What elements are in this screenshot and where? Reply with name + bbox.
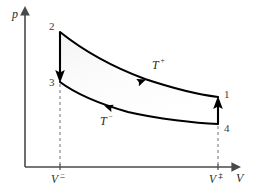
isotherm-cold-label: T − [100, 112, 113, 128]
svg-text:−: − [108, 112, 113, 121]
state-point-label-4: 4 [224, 122, 230, 134]
y-axis-label: p [11, 7, 18, 21]
state-point-label-2: 2 [49, 20, 55, 32]
x-axis-label: V [236, 171, 245, 185]
svg-text:+: + [160, 56, 165, 65]
svg-text:+: + [218, 170, 223, 179]
isotherm-hot-label: T + [152, 56, 165, 72]
cycle-interior-fill [60, 32, 218, 124]
state-point-label-1: 1 [224, 88, 230, 100]
carnot-cycle-figure: p V V⁻ − V⁺ + T + T − 2 3 1 4 [0, 0, 254, 191]
svg-text:T: T [100, 114, 108, 128]
state-point-label-3: 3 [49, 76, 55, 88]
svg-text:−: − [60, 170, 65, 179]
svg-text:T: T [152, 58, 160, 72]
tick-label-v-minus: V⁻ − [51, 170, 65, 185]
carnot-diagram-svg: p V V⁻ − V⁺ + T + T − 2 3 1 4 [0, 0, 254, 191]
tick-label-v-plus: V⁺ + [209, 170, 223, 185]
